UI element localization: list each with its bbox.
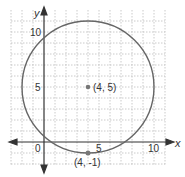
x-tick-10: 10 [148, 143, 160, 154]
y-tick-5: 5 [35, 82, 41, 93]
center-point-label: (4, 5) [93, 82, 116, 93]
origin-label: 0 [35, 143, 41, 154]
x-axis-label: x [174, 137, 181, 149]
coordinate-plane: y x 10 5 0 5 10 (4, 5) (4, -1) [0, 0, 185, 177]
y-axis-label: y [33, 7, 41, 19]
bottom-point [86, 151, 91, 156]
bottom-point-label: (4, -1) [74, 157, 101, 168]
y-axis-up-arrow-icon [41, 7, 47, 15]
x-axis-left-arrow-icon [9, 139, 17, 145]
y-axis-down-arrow-icon [41, 165, 47, 173]
y-tick-10: 10 [30, 27, 42, 38]
x-axis-right-arrow-icon [166, 139, 174, 145]
center-point [86, 85, 91, 90]
x-tick-5: 5 [96, 143, 102, 154]
